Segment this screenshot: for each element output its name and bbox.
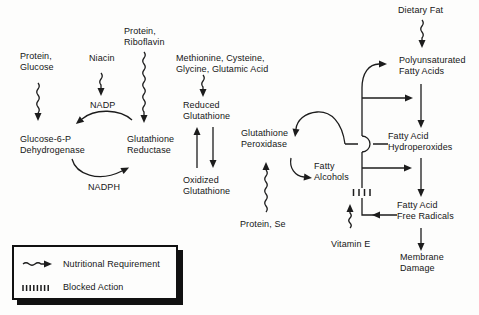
node-oxidized-glutathione: Oxidized Glutathione [183,175,230,197]
arrow-oxidized-to-reduced [194,127,201,168]
wavy-arrow-methionine-to-reduced-glutathione [200,75,207,97]
node-reduced-glutathione: Reduced Glutathione [183,100,230,122]
wavy-arrow-vitamin-e-to-blocked-site [347,204,354,228]
radical-recycle-line [362,88,370,188]
pathway-diagram: Protein, Glucose Niacin Protein, Ribofla… [0,0,479,315]
arrow-free-radicals-to-recycle [362,198,397,219]
arrow-recycle-to-pufa [362,61,387,89]
node-fatty-acid-hydroperoxides: Fatty Acid Hydroperoxides [388,131,452,153]
node-glutathione-reductase: Glutathione Reductase [127,134,174,156]
arrow-peroxidase-to-fatty-alcohols [291,158,312,181]
arrow-radical-attack-upper [362,95,413,102]
node-dietary-fat: Dietary Fat [398,5,443,16]
wavy-arrow-riboflavin-to-reductase [141,52,148,123]
nadp-cycle-top-arc [76,111,132,124]
blocked-action-marks [354,189,371,196]
node-protein-se: Protein, Se [240,219,286,230]
wavy-arrow-dietary-fat-to-pufa [419,20,426,48]
legend-label-nutritional-requirement: Nutritional Requirement [63,259,160,270]
node-vitamin-e: Vitamin E [331,239,370,250]
node-nadp: NADP [90,100,115,111]
node-polyunsaturated-fatty-acids: Polyunsaturated Fatty Acids [399,55,466,77]
wavy-arrow-protein-se-to-peroxidase [263,162,270,212]
node-membrane-damage: Membrane Damage [400,252,444,274]
node-glutathione-peroxidase: Glutathione Peroxidase [241,128,288,150]
arrow-hydroperoxides-to-peroxidase [293,112,346,144]
arrow-reduced-to-oxidized [210,127,217,168]
line-hop [362,136,370,152]
legend-label-blocked-action: Blocked Action [63,282,123,293]
arrow-radical-attack-lower [362,165,412,172]
nadph-cycle-bottom-arc [72,159,129,177]
node-niacin: Niacin [89,53,115,64]
node-methionine-cysteine: Methionine, Cysteine, Glycine, Glutamic … [176,53,268,75]
node-fatty-acid-free-radicals: Fatty Acid Free Radicals [397,200,454,222]
node-glucose-6-p-dehydrogenase: Glucose-6-P Dehydrogenase [20,134,85,156]
wavy-arrow-protein-glucose-to-g6pd [35,83,42,121]
node-protein-riboflavin: Protein, Riboflavin [124,26,165,48]
arrow-hydroperoxides-to-free-radicals [418,158,425,197]
arrow-pufa-to-hydroperoxides [418,84,425,128]
node-nadph: NADPH [88,182,120,193]
wavy-arrow-niacin-to-nadp [98,73,105,96]
node-protein-glucose: Protein, Glucose [20,51,54,73]
arrow-free-radicals-to-membrane-damage [418,228,425,251]
node-fatty-alcohols: Fatty Alcohols [314,161,349,183]
